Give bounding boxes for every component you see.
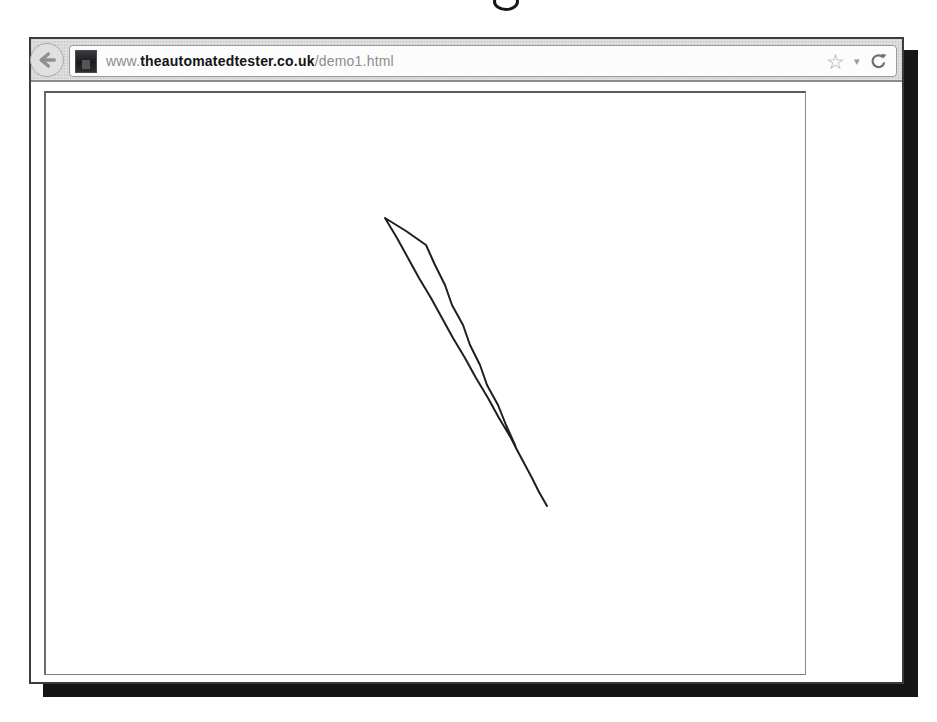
site-favicon-icon[interactable] xyxy=(75,50,97,73)
back-arrow-icon xyxy=(36,49,58,71)
browser-window: www.theautomatedtester.co.uk/demo1.html … xyxy=(29,37,904,684)
url-domain: theautomatedtester.co.uk xyxy=(140,53,314,69)
bookmark-star-icon[interactable]: ☆ xyxy=(826,51,845,72)
cropped-caption-artifact xyxy=(493,0,519,11)
url-text: www.theautomatedtester.co.uk/demo1.html xyxy=(106,53,394,69)
url-path: /demo1.html xyxy=(315,53,394,69)
browser-toolbar: www.theautomatedtester.co.uk/demo1.html … xyxy=(31,39,902,82)
canvas-frame xyxy=(44,91,806,675)
drawn-stroke-tail xyxy=(516,448,547,506)
dropdown-arrow-icon[interactable]: ▾ xyxy=(854,56,860,67)
page-content xyxy=(31,82,902,682)
reload-icon[interactable] xyxy=(869,52,888,71)
url-prefix: www. xyxy=(106,53,140,69)
reload-arrow-glyph xyxy=(869,52,888,71)
urlbar-icon-group: ☆ ▾ xyxy=(826,51,888,72)
canvas-drawing-svg[interactable] xyxy=(46,93,805,674)
url-bar[interactable]: www.theautomatedtester.co.uk/demo1.html … xyxy=(69,45,897,77)
back-button[interactable] xyxy=(30,43,64,77)
drawn-stroke-outline xyxy=(385,218,516,448)
